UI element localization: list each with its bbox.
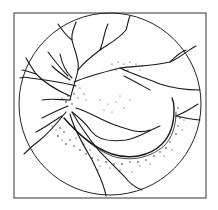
crescent-lesion-rim — [64, 98, 176, 159]
fundus-drawing — [0, 0, 218, 210]
figure-frame — [14, 13, 206, 198]
figure-container — [0, 0, 218, 210]
